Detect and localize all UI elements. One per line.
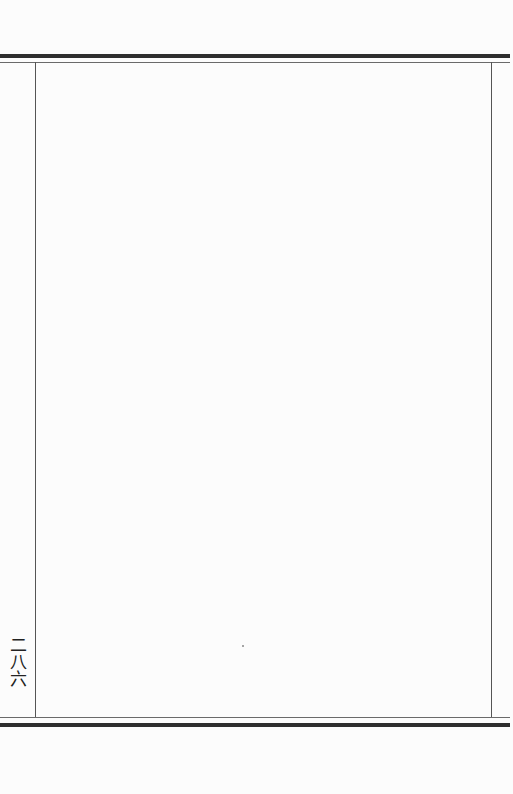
top-thick-rule — [0, 54, 510, 58]
scan-speck — [242, 645, 244, 647]
left-frame-line — [35, 62, 36, 718]
bottom-thin-rule — [0, 717, 510, 718]
top-thin-rule — [0, 62, 510, 63]
page-number: 二八六 — [4, 636, 26, 687]
bottom-thick-rule — [0, 723, 510, 727]
right-frame-line — [491, 62, 492, 718]
page-background — [0, 0, 513, 794]
